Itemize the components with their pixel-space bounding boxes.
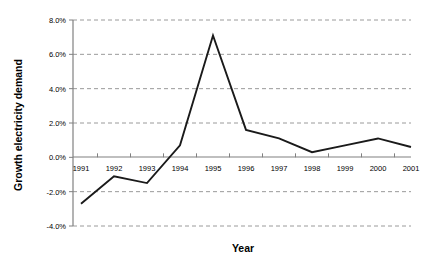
x-tick-label: 1996 [238, 164, 255, 173]
x-tick-label: 1998 [304, 164, 321, 173]
x-tick-label: 1994 [172, 164, 189, 173]
chart-figure: 8.0%6.0%4.0%2.0%0.0%-2.0%-4.0% 199119921… [0, 0, 424, 271]
x-tick-label: 2000 [370, 164, 387, 173]
y-tick-label: 8.0% [49, 16, 66, 25]
x-tick-label: 1999 [337, 164, 354, 173]
y-tick-label: 0.0% [49, 153, 66, 162]
x-tick-label: 1992 [106, 164, 123, 173]
x-tick-label: 1997 [271, 164, 288, 173]
x-tick-label: 1993 [139, 164, 156, 173]
x-tick-label: 2001 [403, 164, 420, 173]
y-tick-label: -2.0% [46, 188, 66, 197]
y-tick-label: 6.0% [49, 50, 66, 59]
x-axis-title: Year [232, 242, 254, 254]
line-chart: 8.0%6.0%4.0%2.0%0.0%-2.0%-4.0% 199119921… [0, 0, 424, 271]
y-tick-label: 4.0% [49, 85, 66, 94]
x-tick-label: 1991 [73, 164, 90, 173]
y-tick-label: -4.0% [46, 222, 66, 231]
x-tick-label: 1995 [205, 164, 222, 173]
y-tick-label: 2.0% [49, 119, 66, 128]
y-axis-title: Growth electricity demand [12, 59, 24, 191]
